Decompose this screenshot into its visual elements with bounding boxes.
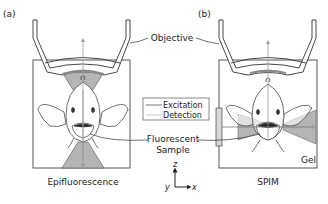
fluorescent-label: Fluorescent: [147, 134, 200, 144]
microscopy-diagram: (a) Epifluorescence (b): [0, 0, 328, 204]
objective-lens-a: [33, 20, 130, 75]
objective-callout: Objective: [130, 33, 219, 44]
axis-indicator: z y x: [164, 160, 197, 192]
legend-detection-label: Detection: [163, 111, 202, 120]
objective-lens-b: [219, 20, 316, 75]
x-axis-label: x: [191, 183, 197, 192]
panel-epifluorescence: (a) Epifluorescence: [3, 9, 130, 187]
fish-eye-left-a: [72, 108, 75, 113]
objective-label: Objective: [151, 33, 194, 43]
fin-right-a: [100, 104, 128, 126]
sample-callout: Fluorescent Sample: [90, 134, 260, 155]
caption-spim: SPIM: [257, 177, 279, 187]
sample-label: Sample: [156, 145, 190, 155]
panel-b-label: (b): [198, 9, 211, 19]
legend-excitation-label: Excitation: [163, 101, 203, 110]
fish-b: [226, 78, 312, 152]
z-axis-label: z: [172, 160, 178, 169]
panel-spim: (b) Gel SPIM: [198, 9, 317, 187]
legend: Excitation Detection: [143, 98, 209, 120]
caption-epifluorescence: Epifluorescence: [47, 177, 119, 187]
fin-left-a: [38, 104, 66, 126]
fish-eye-right-a: [92, 108, 95, 113]
gel-label: Gel: [301, 155, 316, 165]
y-axis-label: y: [164, 183, 170, 192]
panel-a-label: (a): [3, 9, 16, 19]
